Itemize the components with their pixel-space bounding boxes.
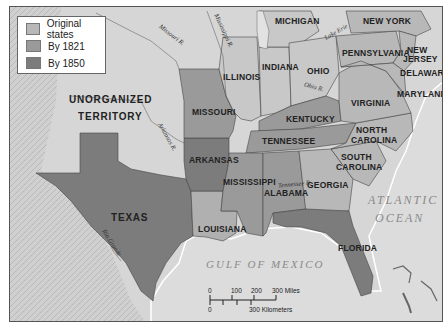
label-mississippi: MISSISSIPPI [223,177,276,187]
map-frame: Original states By 1821 By 1850 MICHIGAN… [9,6,443,322]
label-new-york: NEW YORK [363,16,411,26]
label-louisiana: LOUISIANA [198,224,247,234]
legend-item-1821: By 1821 [26,39,85,53]
legend: Original states By 1821 By 1850 [17,16,106,74]
legend-label: By 1850 [48,58,85,69]
scale-km-0: 0 [208,306,212,313]
label-delaware: DELAWARE [400,68,443,78]
legend-label: Original states [47,18,105,40]
label-tennessee: TENNESSEE [262,136,315,146]
label-indiana: INDIANA [262,62,299,72]
label-unorganized-territory-2: TERRITORY [78,112,142,122]
scale-mile-300: 300 Miles [272,287,300,294]
legend-label: By 1821 [48,41,85,52]
label-florida: FLORIDA [338,243,377,253]
label-missouri: MISSOURI [192,107,236,117]
state-indiana [259,47,291,116]
label-gulf-of-mexico: GULF OF MEXICO [206,256,324,272]
label-unorganized-territory-1: UNORGANIZED [69,95,152,105]
label-illinois: ILLINOIS [223,72,261,82]
legend-swatch [26,40,41,52]
label-north-carolina-1: NORTH [356,125,387,135]
legend-item-1850: By 1850 [26,56,85,70]
scale-mile-100: 100 [231,287,242,294]
label-south-carolina-2: CAROLINA [336,162,382,172]
legend-item-original: Original states [26,22,105,36]
label-atlantic-1: ATLANTIC [368,192,438,208]
label-texas: TEXAS [111,213,148,223]
scale-bar: 0 100 200 300 Miles 0 300 Kilometers [206,287,316,317]
label-north-carolina-2: CAROLINA [351,135,397,145]
label-michigan: MICHIGAN [275,16,320,26]
legend-swatch [26,23,40,35]
label-alabama: ALABAMA [264,188,308,198]
label-virginia: VIRGINIA [351,98,390,108]
scale-km-300: 300 Kilometers [249,306,292,313]
scale-mile-200: 200 [251,287,262,294]
label-kentucky: KENTUCKY [286,114,335,124]
label-new-jersey-2: JERSEY [403,54,438,64]
label-arkansas: ARKANSAS [189,155,239,165]
label-atlantic-2: OCEAN [375,210,424,226]
label-georgia: GEORGIA [307,180,349,190]
label-pennsylvania: PENNSYLVANIA [342,48,410,58]
label-south-carolina-1: SOUTH [341,152,372,162]
label-maryland: MARYLAND [397,89,443,99]
scale-mile-0: 0 [208,287,212,294]
label-ohio: OHIO [307,66,330,76]
legend-swatch [26,57,41,69]
